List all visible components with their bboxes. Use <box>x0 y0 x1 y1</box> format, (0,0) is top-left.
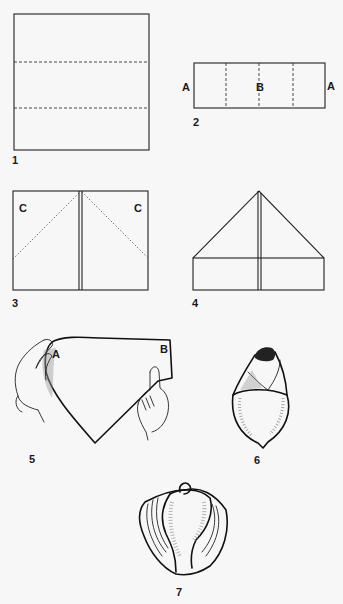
rectangle-sheet <box>13 191 148 290</box>
point-label-b: B <box>256 81 264 93</box>
step-5-figure: A B 5 <box>15 337 172 465</box>
step-number-6: 6 <box>254 454 260 466</box>
step-number-2: 2 <box>193 116 199 128</box>
step-number-1: 1 <box>12 154 18 166</box>
step-number-3: 3 <box>12 297 18 309</box>
step-4-figure: 4 <box>192 191 324 309</box>
square-sheet <box>14 14 149 150</box>
folding-diagram: 1 A B A 2 C C 3 4 <box>0 0 343 604</box>
step-number-7: 7 <box>176 586 182 598</box>
point-label-a-left: A <box>182 81 190 93</box>
step-number-5: 5 <box>29 453 35 465</box>
bud-tip <box>255 347 275 361</box>
step-number-4: 4 <box>192 297 199 309</box>
point-label-b: B <box>160 343 168 355</box>
inner-petal-right <box>170 490 211 568</box>
step-6-figure: 6 <box>233 347 289 466</box>
step-2-figure: A B A 2 <box>182 63 335 128</box>
inner-petal-left <box>163 494 176 572</box>
step-1-figure: 1 <box>12 14 149 166</box>
point-label-a-right: A <box>327 80 335 92</box>
right-hand-icon <box>137 367 168 440</box>
corner-label-c-left: C <box>19 202 27 214</box>
step-7-figure: 7 <box>140 483 228 598</box>
point-label-a: A <box>52 348 60 360</box>
step-3-figure: C C 3 <box>12 191 148 309</box>
curved-paper <box>45 337 172 443</box>
corner-label-c-right: C <box>134 202 142 214</box>
